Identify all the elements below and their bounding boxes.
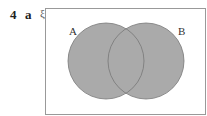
set-a-label: A	[69, 25, 77, 37]
venn-diagram	[0, 0, 207, 116]
set-b-label: B	[178, 25, 185, 37]
